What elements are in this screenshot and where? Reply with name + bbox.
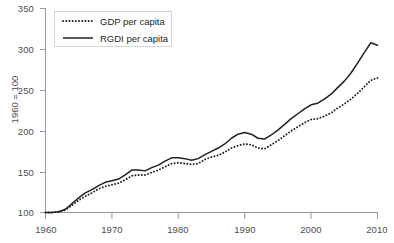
series-line-gdp-per-capita [46, 78, 378, 213]
y-tick-label-100: 100 [4, 207, 34, 218]
y-axis-ticks [40, 9, 46, 213]
legend-item-rgdi-per-capita: RGDI per capita [55, 29, 173, 47]
legend-label-gdp-per-capita: GDP per capita [100, 16, 165, 27]
y-tick-label-200: 200 [4, 126, 34, 137]
x-tick-label-1960: 1960 [26, 224, 66, 235]
y-tick-label-250: 250 [4, 85, 34, 96]
legend-item-gdp-per-capita: GDP per capita [55, 12, 173, 30]
y-tick-label-150: 150 [4, 167, 34, 178]
x-axis-ticks [46, 213, 378, 220]
series-line-rgdi-per-capita [46, 43, 378, 213]
legend-swatch-solid-icon [62, 33, 94, 43]
legend-swatch-dotted-icon [62, 16, 94, 26]
x-tick-label-2000: 2000 [291, 224, 331, 235]
x-tick-label-1980: 1980 [158, 224, 198, 235]
legend-label-rgdi-per-capita: RGDI per capita [100, 33, 168, 44]
x-tick-label-1990: 1990 [225, 224, 265, 235]
chart-legend: GDP per capita RGDI per capita [54, 11, 172, 47]
x-tick-label-2010: 2010 [357, 224, 394, 235]
y-tick-label-350: 350 [4, 3, 34, 14]
y-tick-label-300: 300 [4, 44, 34, 55]
chart-container: 1960 = 100 350 300 250 200 150 100 1960 … [0, 0, 394, 243]
x-tick-label-1970: 1970 [92, 224, 132, 235]
